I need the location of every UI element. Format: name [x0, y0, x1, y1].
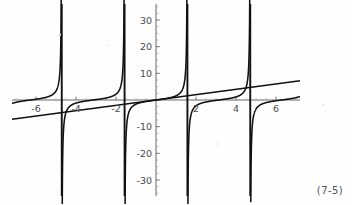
- y-tick-label: 10: [140, 68, 152, 79]
- x-tick-label: -2: [111, 103, 120, 114]
- x-tick-label: 2: [193, 103, 199, 114]
- x-tick-label: 4: [233, 103, 239, 114]
- scan-speck: [108, 44, 110, 46]
- scan-speck: [322, 104, 324, 106]
- y-tick-label: -20: [136, 148, 152, 159]
- tangent-branch: [12, 0, 61, 103]
- y-tick-label: 30: [140, 15, 152, 26]
- tangent-and-line-plot: -6-4-2246 -30-20-10102030: [0, 0, 352, 205]
- y-tick-label: -10: [136, 121, 152, 132]
- scan-speck: [215, 143, 218, 145]
- y-tick-label: 20: [140, 41, 152, 52]
- x-tick-label: -4: [71, 103, 80, 114]
- x-tick-label: 6: [273, 103, 279, 114]
- x-tick-label: -6: [31, 103, 40, 114]
- figure-caption: (7-5): [317, 185, 343, 196]
- y-tick-label: -30: [136, 175, 152, 186]
- scan-speck: [58, 33, 61, 36]
- scan-speck: [147, 176, 149, 178]
- figure-panel: -6-4-2246 -30-20-10102030 (7-5): [0, 0, 352, 205]
